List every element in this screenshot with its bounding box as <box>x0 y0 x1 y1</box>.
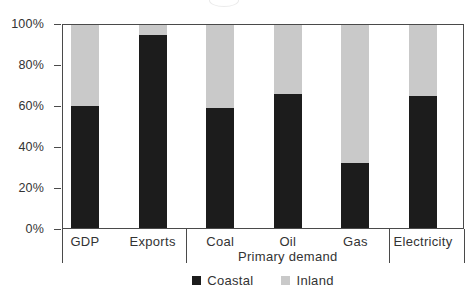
category-divider-2 <box>389 229 390 263</box>
y-tick-label-100: 100% <box>0 17 44 31</box>
y-tick-mark-0 <box>54 229 61 230</box>
segment-coastal-coal <box>206 108 234 228</box>
x-category-label-gas: Gas <box>343 234 368 249</box>
legend-label-coastal: Coastal <box>207 273 253 288</box>
segment-inland-oil <box>274 25 302 94</box>
segment-coastal-gas <box>341 163 369 228</box>
legend-item-inland: Inland <box>281 273 333 288</box>
group-label-primary-demand: Primary demand <box>238 249 338 264</box>
segment-coastal-oil <box>274 94 302 228</box>
bar-exports <box>139 25 167 228</box>
segment-inland-electricity <box>409 25 437 96</box>
y-tick-label-20: 20% <box>0 181 44 195</box>
stacked-bar-chart-figure: 0%20%40%60%80%100% GDPExportsCoalOilGasE… <box>0 0 474 307</box>
bar-oil <box>274 25 302 228</box>
y-tick-mark-80 <box>54 65 61 66</box>
y-tick-label-80: 80% <box>0 58 44 72</box>
y-tick-mark-40 <box>54 147 61 148</box>
category-divider-3 <box>464 229 465 263</box>
legend: CoastalInland <box>62 273 464 288</box>
x-category-label-coal: Coal <box>206 234 234 249</box>
segment-coastal-electricity <box>409 96 437 228</box>
segment-inland-gdp <box>71 25 99 106</box>
segment-coastal-exports <box>139 35 167 228</box>
legend-item-coastal: Coastal <box>192 273 253 288</box>
y-tick-mark-20 <box>54 188 61 189</box>
y-tick-label-60: 60% <box>0 99 44 113</box>
y-tick-mark-60 <box>54 106 61 107</box>
x-category-label-exports: Exports <box>130 234 176 249</box>
scan-artifact <box>209 0 239 7</box>
legend-swatch-inland <box>281 276 290 285</box>
bar-electricity <box>409 25 437 228</box>
y-tick-label-40: 40% <box>0 140 44 154</box>
plot-area <box>62 24 464 229</box>
bar-gas <box>341 25 369 228</box>
segment-inland-coal <box>206 25 234 108</box>
bar-coal <box>206 25 234 228</box>
x-category-label-oil: Oil <box>279 234 296 249</box>
bar-gdp <box>71 25 99 228</box>
category-divider-1 <box>186 229 187 263</box>
segment-inland-gas <box>341 25 369 163</box>
segment-coastal-gdp <box>71 106 99 228</box>
y-tick-label-0: 0% <box>0 222 44 236</box>
y-tick-mark-100 <box>54 24 61 25</box>
legend-swatch-coastal <box>192 276 201 285</box>
x-category-label-gdp: GDP <box>70 234 99 249</box>
segment-inland-exports <box>139 25 167 35</box>
category-divider-0 <box>62 229 63 263</box>
legend-label-inland: Inland <box>296 273 333 288</box>
x-category-label-electricity: Electricity <box>394 234 453 249</box>
